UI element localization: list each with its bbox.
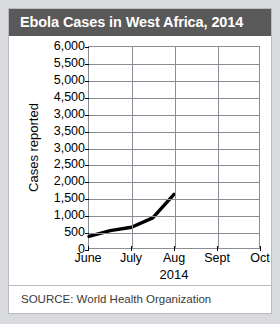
y-axis-tick-mark [85,132,89,133]
y-axis-tick-label: 3,000 [39,141,85,155]
y-axis-tick-label: 500 [39,225,85,239]
y-axis-tick-mark [85,233,89,234]
chart-plot-wrapper: Cases reported 6,0005,5005,0004,5003,000… [9,36,271,285]
horizontal-gridline [89,81,259,82]
horizontal-gridline [89,199,259,200]
horizontal-gridline [89,165,259,166]
horizontal-gridline [89,216,259,217]
x-axis-tick-label: Sept [204,251,230,265]
horizontal-gridline [89,64,259,65]
horizontal-gridline [89,233,259,234]
horizontal-gridline [89,149,259,150]
vertical-gridline [175,47,176,248]
y-axis-tick-label: 6,000 [39,39,85,53]
vertical-gridline [218,47,219,248]
horizontal-gridline [89,132,259,133]
y-axis-tick-mark [85,149,89,150]
x-axis-title: 2014 [88,267,260,282]
chart-title-band: Ebola Cases in West Africa, 2014 [9,9,271,36]
source-note: SOURCE: World Health Organization [21,293,211,305]
y-axis-tick-label: 1,500 [39,191,85,205]
y-axis-tick-mark [85,182,89,183]
x-axis-tick-mark [131,246,132,251]
horizontal-gridline [89,98,259,99]
horizontal-gridline [89,115,259,116]
y-axis-tick-label: 3,500 [39,124,85,138]
y-axis-tick-mark [85,199,89,200]
x-axis-tick-label: Oct [250,251,269,265]
x-axis-tick-label: June [74,251,101,265]
y-axis-tick-label: 5,000 [39,73,85,87]
y-axis-tick-mark [85,216,89,217]
y-axis-tick-label: 2,500 [39,157,85,171]
data-line-series [89,47,259,248]
chart-title: Ebola Cases in West Africa, 2014 [20,14,243,30]
y-axis-tick-label: 5,500 [39,56,85,70]
plot-area [88,46,260,249]
source-divider [9,285,271,286]
y-axis-tick-mark [85,64,89,65]
y-axis-tick-mark [85,47,89,48]
x-axis-tick-mark [260,246,261,251]
y-axis-tick-mark [85,81,89,82]
y-axis-tick-label: 1,000 [39,208,85,222]
horizontal-gridline [89,182,259,183]
x-axis-tick-label: July [120,251,142,265]
y-axis-tick-label: 3,000 [39,107,85,121]
y-axis-tick-label: 2,000 [39,174,85,188]
y-axis-tick-label: 4,500 [39,90,85,104]
x-axis-tick-label: Aug [163,251,185,265]
chart-card: Ebola Cases in West Africa, 2014 Cases r… [8,8,272,314]
x-axis-tick-mark [217,246,218,251]
vertical-gridline [132,47,133,248]
y-axis-tick-mark [85,165,89,166]
y-axis-tick-labels: 6,0005,5005,0004,5003,0003,5003,0002,500… [39,46,85,249]
y-axis-tick-mark [85,98,89,99]
x-axis-tick-mark [88,246,89,251]
x-axis-tick-mark [174,246,175,251]
y-axis-tick-mark [85,115,89,116]
